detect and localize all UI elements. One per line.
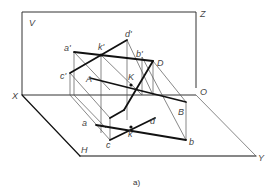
label-k-prime: k' [98, 42, 105, 52]
label-V: V [29, 18, 36, 28]
label-H: H [81, 145, 88, 155]
label-b-prime: b' [136, 49, 143, 59]
label-a: a [82, 118, 87, 128]
label-c-prime: c' [60, 71, 67, 81]
label-B: B [178, 107, 184, 117]
figure-caption: a) [133, 178, 140, 187]
label-A: A [85, 74, 92, 84]
label-D: D [157, 58, 164, 68]
oy-axis [196, 95, 256, 156]
projector-lines [70, 40, 186, 140]
label-d-prime: d' [125, 29, 132, 39]
h-plane-left-edge [22, 95, 80, 156]
point-K [129, 83, 132, 86]
label-X: X [11, 91, 19, 101]
label-c: c [106, 140, 111, 150]
label-K: K [128, 72, 135, 82]
label-Z: Z [199, 9, 206, 19]
label-Y: Y [258, 153, 265, 163]
label-b: b [189, 137, 194, 147]
point-k-prime [99, 53, 102, 56]
label-k: k [128, 129, 133, 139]
label-O: O [200, 87, 207, 97]
object-lines [70, 40, 186, 140]
projection-diagram: V Z O X H Y a' k' d' b' c' A K D B a c k… [0, 0, 276, 191]
label-a-prime: a' [64, 43, 71, 53]
